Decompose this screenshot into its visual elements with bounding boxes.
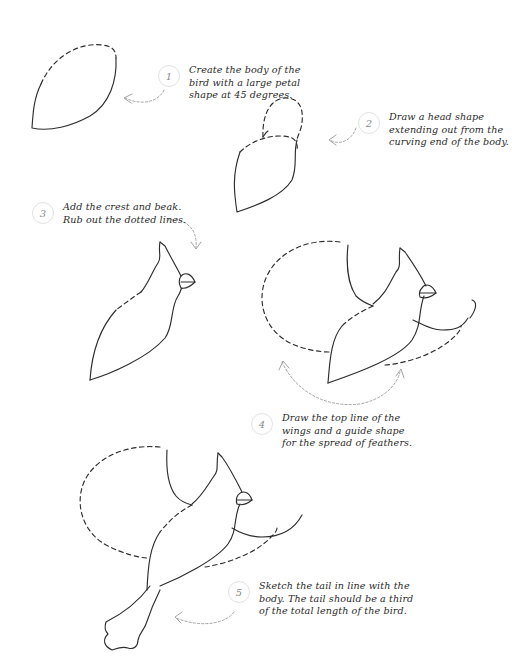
step-number-badge: 5 xyxy=(228,581,250,603)
step-2-line-1: Draw a head shape xyxy=(389,111,509,124)
step-4: 4 Draw the top line of the wings and a g… xyxy=(251,412,412,450)
step-4-line-2: wings and a guide shape xyxy=(282,425,412,438)
step-number-badge: 4 xyxy=(251,413,273,435)
step-3: 3 Add the crest and beak. Rub out the do… xyxy=(32,201,186,226)
step-3-instructions: Add the crest and beak. Rub out the dott… xyxy=(63,201,186,226)
step-number-badge: 1 xyxy=(158,65,180,87)
step-1-line-1: Create the body of the xyxy=(189,64,300,77)
figure-2-body-with-head xyxy=(234,98,356,212)
step-2-line-3: curving end of the body. xyxy=(389,136,509,149)
step-3-line-2: Rub out the dotted lines. xyxy=(63,214,186,227)
step-number-badge: 2 xyxy=(358,112,380,134)
step-2-instructions: Draw a head shape extending out from the… xyxy=(389,111,509,149)
step-4-line-1: Draw the top line of the xyxy=(282,412,412,425)
step-5-line-1: Sketch the tail in line with the xyxy=(259,580,413,593)
step-1-line-3: shape at 45 degrees. xyxy=(189,89,300,102)
figure-3-crest-and-beak xyxy=(90,220,201,380)
step-5-line-3: of the total length of the bird. xyxy=(259,605,413,618)
step-number-badge: 3 xyxy=(32,202,54,224)
step-4-line-3: for the spread of feathers. xyxy=(282,437,412,450)
step-5-line-2: body. The tail should be a third xyxy=(259,593,413,606)
step-3-line-1: Add the crest and beak. xyxy=(63,201,186,214)
figure-5-tail xyxy=(80,447,302,650)
step-2-line-2: extending out from the xyxy=(389,124,509,137)
step-1: 1 Create the body of the bird with a lar… xyxy=(158,64,300,102)
step-1-line-2: bird with a large petal xyxy=(189,77,300,90)
figure-4-wings-and-guide xyxy=(262,241,476,404)
step-4-instructions: Draw the top line of the wings and a gui… xyxy=(282,412,412,450)
step-2: 2 Draw a head shape extending out from t… xyxy=(358,111,509,149)
figure-1-petal-body xyxy=(32,45,164,130)
step-5-instructions: Sketch the tail in line with the body. T… xyxy=(259,580,413,618)
step-1-instructions: Create the body of the bird with a large… xyxy=(189,64,300,102)
step-5: 5 Sketch the tail in line with the body.… xyxy=(228,580,413,618)
